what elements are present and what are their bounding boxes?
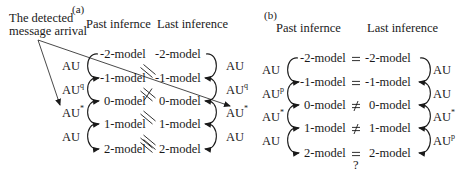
au-label-past: AUp (262, 88, 284, 101)
au-arrow-past (88, 101, 99, 124)
au-label-last: AU* (433, 111, 455, 124)
annotation-line-1: The detected (9, 12, 73, 25)
col-last-header: Last inference (157, 18, 228, 31)
au-label-last: AU (433, 88, 451, 101)
au-label-last: AU* (226, 107, 248, 120)
au-arrow-past (288, 58, 299, 82)
past-model: -1-model (300, 76, 346, 89)
au-arrow-past (288, 128, 299, 153)
au-label-past: AU* (62, 107, 84, 120)
au-arrow-last (419, 128, 430, 153)
au-arrow-last (205, 124, 216, 149)
relation-not-equal (352, 124, 360, 134)
past-model: -1-model (100, 72, 146, 85)
au-arrow-last (205, 54, 216, 78)
au-arrow-past (88, 124, 99, 149)
past-model: -2-model (100, 48, 146, 61)
last-model: -1-model (365, 76, 411, 89)
panel-b-label: (b) (264, 10, 277, 21)
past-model: 2-model (104, 143, 146, 156)
col-past-header: Past infernce (86, 18, 151, 31)
au-label-past: AU (62, 60, 80, 73)
relation-equal (352, 81, 360, 84)
col-past-header: Past infernce (276, 22, 341, 35)
relation-query: ? (353, 159, 359, 172)
last-model: 0-model (159, 95, 201, 108)
au-arrow-last (419, 58, 430, 82)
relation-not-equal (352, 101, 360, 111)
au-arrow-last (419, 82, 430, 105)
panel-a-label: (a) (72, 4, 84, 15)
last-model: 1-model (369, 122, 411, 135)
au-label-past: AU* (262, 111, 284, 124)
last-model: -2-model (365, 52, 411, 65)
last-model: -2-model (155, 48, 201, 61)
au-arrow-last (419, 105, 430, 128)
past-model: 1-model (104, 118, 146, 131)
au-label-last: AU (226, 60, 244, 73)
annotation-line-2: message arrival (9, 25, 87, 38)
au-label-past: AU (262, 64, 280, 77)
past-model: 0-model (304, 99, 346, 112)
au-label-last: AU (226, 131, 244, 144)
past-model: 1-model (304, 122, 346, 135)
au-label-last: AUq (226, 84, 248, 97)
au-label-past: AU (262, 135, 280, 148)
au-label-last: AUp (433, 135, 455, 148)
past-model: 2-model (304, 147, 346, 160)
au-arrow-last (205, 101, 216, 124)
au-label-past: AU (62, 131, 80, 144)
col-last-header: Last inference (367, 22, 438, 35)
past-model: -2-model (300, 52, 346, 65)
au-label-last: AU (433, 64, 451, 77)
last-model: 0-model (369, 99, 411, 112)
last-model: 2-model (159, 143, 201, 156)
last-model: 2-model (369, 147, 411, 160)
last-model: -1-model (155, 72, 201, 85)
au-label-past: AUq (62, 84, 84, 97)
relation-equal (352, 57, 360, 60)
au-arrow-past (288, 105, 299, 128)
au-arrow-past (88, 78, 99, 101)
pointer-to-past (38, 40, 60, 105)
last-model: 1-model (159, 118, 201, 131)
relation-equal (352, 152, 360, 155)
past-model: 0-model (104, 95, 146, 108)
au-arrow-past (288, 82, 299, 105)
